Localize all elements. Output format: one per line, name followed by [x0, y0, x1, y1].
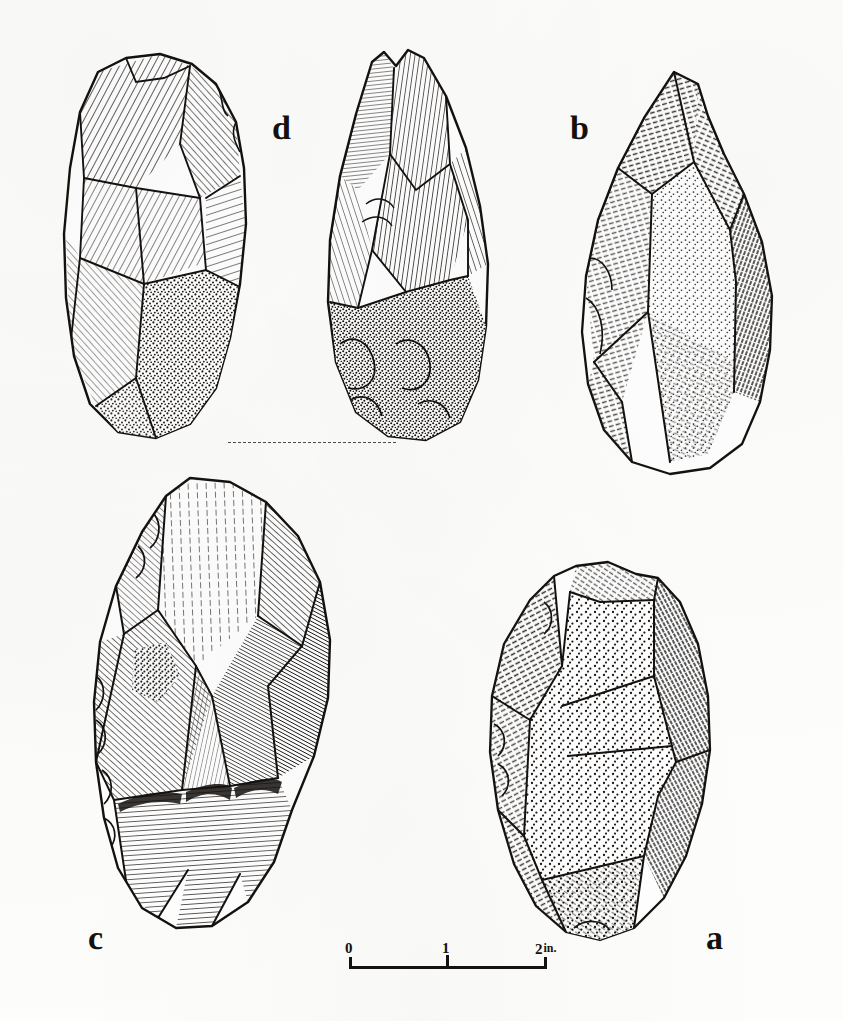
scale-label-2: 2in. [535, 941, 557, 957]
figure-label-c: c [88, 922, 103, 956]
figure-handaxe-d-face-view [40, 48, 270, 448]
scale-label-2-number: 2 [535, 941, 543, 957]
scale-tick-2 [544, 957, 547, 969]
scale-label-1: 1 [442, 941, 450, 956]
figure-label-b: b [570, 112, 589, 146]
scale-tick-1 [446, 955, 449, 969]
scale-bar: 0 1 2in. [349, 944, 547, 978]
figure-label-d: d [272, 112, 291, 146]
figure-handaxe-c [62, 470, 382, 942]
scale-label-0: 0 [345, 941, 353, 956]
dashed-baseline [228, 442, 396, 443]
plate-canvas: d [0, 0, 843, 1021]
scale-unit-label: in. [544, 941, 557, 955]
figure-label-a: a [706, 922, 723, 956]
figure-handaxe-a [458, 556, 738, 950]
scale-tick-0 [349, 957, 352, 969]
figure-handaxe-d-profile-view [300, 44, 520, 448]
